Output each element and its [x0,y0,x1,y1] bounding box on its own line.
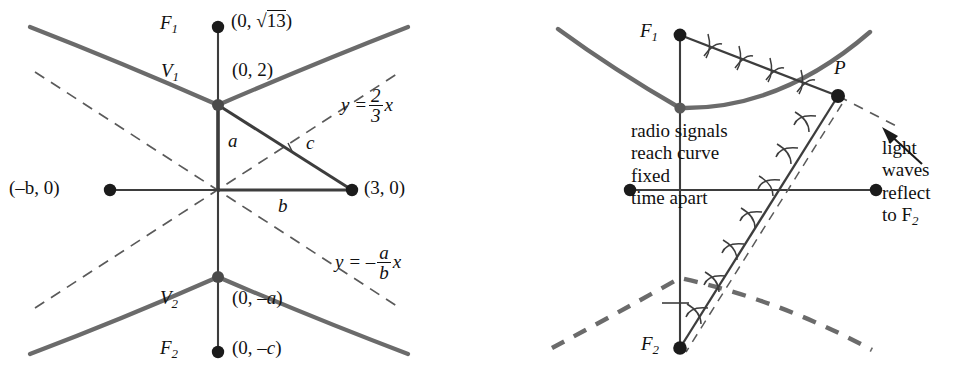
left-figure-graphics [0,0,490,376]
label-asymptote-negative: y = –abx [335,244,401,284]
point-focus-2 [673,341,687,355]
point-focus-2 [212,346,224,358]
left-figure-panel: F1 (0, √13) (0, √13) V1 (0, 2) (–b, 0) (… [0,0,490,376]
label-three-zero: (3, 0) [364,178,405,197]
label-focus-2-coord: (0, –c) [232,338,282,357]
tangent-dashed-past-p [838,96,900,128]
point-focus-1 [674,29,687,42]
point-minus-b-zero [104,184,116,196]
label-segment-c: c [306,133,314,152]
lower-branch-curve-dashed [552,278,872,350]
label-vertex-2-coord: (0, –a) [232,288,283,307]
note-radio-signals: radio signals reach curve fixed time apa… [631,120,728,210]
label-segment-a: a [228,131,238,150]
label-vertex-2: V2 [160,288,178,311]
point-axis-right [870,184,882,196]
segment-c [218,105,352,190]
incoming-wavefront-ticks [704,34,815,94]
note-light-waves: light waves reflect to F2 [882,137,931,229]
right-figure-panel: F1 P F2 radio signals reach curve fixed … [490,0,979,376]
point-three-zero [346,184,358,196]
label-vertex-1-coord: (0, 2) [232,60,273,79]
incoming-wave-ray [680,35,838,96]
label-focus-2: F2 [641,334,659,357]
upper-branch-curve [558,29,870,108]
note-light-waves-last-line: to F2 [882,204,931,228]
label-point-p: P [834,58,846,77]
point-p [831,89,845,103]
point-vertex-2 [212,271,224,283]
point-vertex [674,102,685,113]
fraction-a-over-b: ab [377,243,391,283]
label-asymptote-positive: y =23x [341,87,393,127]
label-focus-1-coord: (0, √13) [231,10,292,30]
figure-root: F1 (0, √13) (0, √13) V1 (0, 2) (–b, 0) (… [0,0,979,376]
label-minus-b-zero: (–b, 0) [9,178,60,197]
point-focus-1 [212,21,224,33]
label-focus-1: F1 [160,13,178,36]
label-focus-2: F2 [160,338,178,361]
label-segment-b: b [278,196,288,215]
fraction-two-thirds: 23 [369,86,383,126]
label-vertex-1: V1 [161,61,179,84]
point-vertex-1 [212,99,224,111]
label-focus-1: F1 [640,21,658,44]
